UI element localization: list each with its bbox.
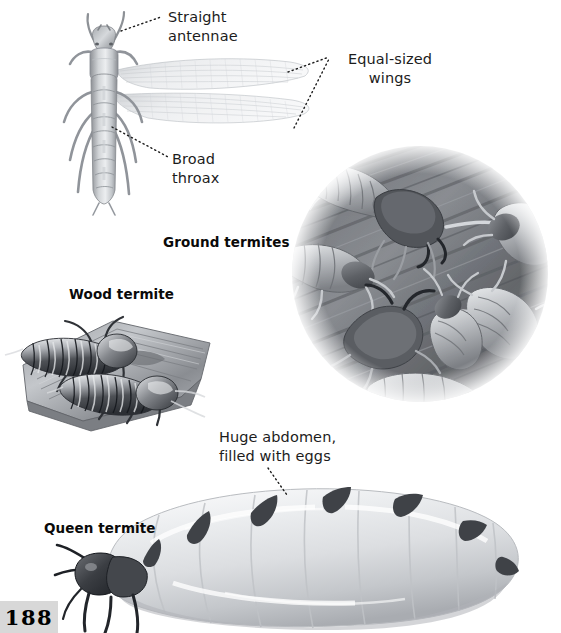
page-canvas: Straight antennae Equal-sized wings Broa…: [0, 0, 561, 633]
leader-broad-thorax: [112, 127, 170, 158]
heading-wood-termite: Wood termite: [69, 286, 174, 302]
callout-equal-sized-wings: Equal-sized wings: [335, 50, 445, 87]
leader-wings-lower: [294, 59, 329, 128]
page-number-box: 188: [0, 601, 58, 633]
leader-wings-upper: [288, 57, 329, 72]
ground-termites-illustration: [288, 143, 552, 405]
leader-straight-antennae: [121, 17, 161, 31]
leader-huge-abdomen: [268, 468, 287, 495]
heading-queen-termite: Queen termite: [44, 520, 156, 536]
callout-leader-lines-winged: [0, 0, 330, 200]
page-number: 188: [5, 605, 53, 630]
callout-straight-antennae: Straight antennae: [168, 8, 238, 45]
wood-termite-illustration: [5, 305, 230, 435]
callout-broad-thorax: Broad throax: [172, 150, 219, 187]
heading-ground-termites: Ground termites: [163, 234, 290, 250]
callout-huge-abdomen: Huge abdomen, filled with eggs: [219, 428, 336, 465]
